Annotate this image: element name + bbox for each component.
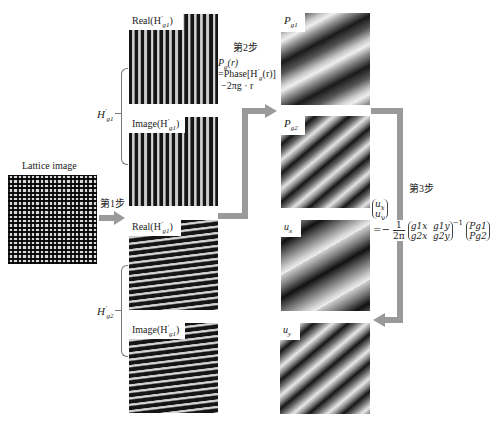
step3-vector-u: ux uy [372, 198, 388, 219]
panel-image-hg1: Image(H′g1) [129, 117, 218, 206]
group-g2-label: H′g2 [97, 305, 113, 317]
step1-label: 第1步 [100, 198, 125, 210]
step3-matrix-g: g1x g1y g2x g2y [408, 221, 453, 241]
panel-image-hg2-label: Image(H′g1) [129, 323, 185, 339]
step1-arrow-head-icon [114, 211, 125, 225]
step2-arrow-head-icon [265, 104, 277, 118]
panel-uy-label: uy [280, 323, 300, 340]
step3-arrow-vertical [397, 108, 403, 323]
step3-arrow-horizontal-bottom [385, 317, 403, 323]
group-g1-label: H′g1 [97, 108, 113, 120]
panel-real-hg2: Real(H′g1) [129, 220, 218, 310]
step3-label: 第3步 [409, 183, 434, 195]
step3-equals: =− [373, 224, 390, 235]
panel-image-hg2: Image(H′g1) [129, 323, 218, 413]
panel-real-hg1: Real(H′g1) [129, 14, 218, 104]
panel-pg2: Pg2 [281, 116, 370, 208]
step3-vector-p: Pg1 Pg2 [466, 221, 490, 241]
step3-arrow-head-icon [373, 313, 385, 327]
step3-formula: =− 12π g1x g1y g2x g2y −1 Pg1 Pg2 [373, 220, 490, 241]
panel-ux-label: ux [281, 220, 301, 237]
step2-formula-line3: −2πg · r [221, 80, 253, 92]
panel-uy: uy [280, 323, 370, 414]
lattice-image [8, 175, 97, 264]
step2-label: 第2步 [233, 42, 258, 54]
brace-g2 [121, 265, 128, 357]
panel-ux: ux [281, 220, 370, 311]
brace-g1-tip [115, 113, 122, 114]
panel-image-hg1-label: Image(H′g1) [129, 117, 185, 133]
brace-g1 [121, 68, 128, 165]
step2-formula-line2: =Phase[H′g(r)] [218, 68, 276, 80]
lattice-image-label: Lattice image [22, 160, 77, 172]
brace-g2-tip [115, 310, 122, 311]
step2-arrow-horizontal-top [242, 108, 266, 114]
panel-real-hg2-label: Real(H′g1) [129, 220, 181, 236]
step3-fraction: 12π [393, 220, 405, 241]
step3-inverse: −1 [453, 219, 463, 227]
panel-pg1: Pg1 [281, 13, 370, 105]
step1-arrow-shaft [99, 215, 115, 221]
step2-arrow-vertical [242, 108, 248, 219]
panel-real-hg1-label: Real(H′g1) [129, 14, 183, 30]
panel-pg1-label: Pg1 [281, 13, 305, 32]
panel-pg2-label: Pg2 [281, 116, 305, 135]
